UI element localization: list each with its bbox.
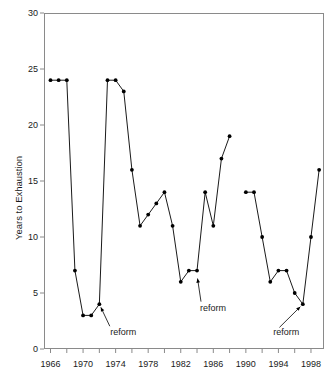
series-markers	[49, 78, 321, 317]
chart-root: Years to Exhaustion 051015202530 1966197…	[0, 0, 334, 387]
annotation-label-reform: reform	[273, 328, 299, 337]
annotation-label-reform: reform	[200, 304, 226, 313]
y-axis-tick-label: 10	[2, 233, 38, 242]
x-axis-tick-label: 1998	[291, 360, 331, 369]
y-axis-tick-label: 30	[2, 9, 38, 18]
y-axis-tick-label: 25	[2, 65, 38, 74]
annotation-label-reform: reform	[110, 328, 136, 337]
y-axis-tick-label: 0	[2, 345, 38, 354]
y-axis-tick-label: 5	[2, 289, 38, 298]
y-axis-tick-label: 20	[2, 121, 38, 130]
y-axis-tick-label: 15	[2, 177, 38, 186]
series-polylines	[51, 80, 320, 315]
